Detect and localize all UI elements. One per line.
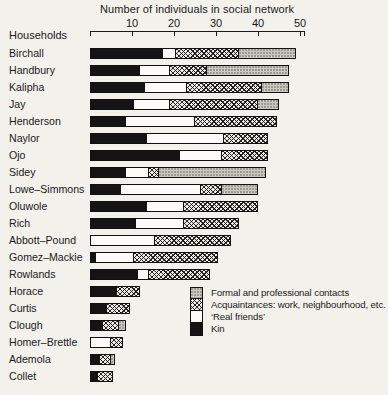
bar-segment-acquaintances [186, 83, 262, 92]
bar-segment-kin [91, 355, 99, 364]
bar-segment-real_friends [139, 66, 168, 75]
bar-segment-real_friends [125, 117, 194, 126]
bar-row [90, 269, 210, 280]
bar-row [90, 99, 279, 110]
household-label: Sidey [9, 167, 36, 178]
legend-label-real_friends: ‘Real friends’ [211, 311, 265, 324]
bar-segment-formal [261, 83, 288, 92]
bar-row [90, 184, 258, 195]
household-label: Rowlands [9, 269, 56, 280]
bar-row [90, 133, 268, 144]
household-label: Jay [9, 99, 26, 110]
bar-segment-real_friends [91, 236, 154, 245]
bar-segment-real_friends [135, 219, 183, 228]
household-label: Curtis [9, 303, 37, 314]
axis-tick-label: 40 [252, 17, 264, 29]
bar-segment-formal [257, 100, 278, 109]
bar-segment-acquaintances [148, 270, 209, 279]
bar-segment-real_friends [133, 100, 169, 109]
legend-label-formal: Formal and professional contacts [211, 287, 349, 300]
bar-segment-acquaintances [99, 355, 110, 364]
bar-segment-real_friends [144, 83, 186, 92]
bar-row [90, 150, 268, 161]
bar-row [90, 235, 231, 246]
household-label: Collet [9, 371, 36, 382]
bar-segment-acquaintances [183, 219, 238, 228]
bar-segment-kin [91, 117, 125, 126]
bar-segment-acquaintances [200, 185, 221, 194]
bar-row [90, 252, 218, 263]
bar-segment-acquaintances [116, 287, 139, 296]
bar-segment-real_friends [179, 151, 221, 160]
bar-row [90, 218, 239, 229]
bar-row [90, 167, 266, 178]
bar-segment-real_friends [146, 202, 184, 211]
chart-title: Number of individuals in social network [88, 3, 306, 15]
bar-segment-acquaintances [154, 236, 230, 245]
household-label: Oluwole [9, 201, 47, 212]
axis-tick [300, 31, 301, 36]
bar-segment-kin [91, 66, 139, 75]
bar-segment-acquaintances [169, 100, 257, 109]
bar-segment-kin [91, 49, 162, 58]
bar-segment-formal [158, 168, 265, 177]
bar-segment-real_friends [125, 168, 148, 177]
bar-segment-formal [221, 185, 257, 194]
axis-tick [90, 31, 91, 36]
legend-item-kin: Kin [190, 323, 386, 335]
bar-segment-acquaintances [148, 168, 159, 177]
bar-segment-kin [91, 219, 135, 228]
bar-segment-kin [91, 185, 120, 194]
bar-segment-acquaintances [133, 253, 217, 262]
household-label: Rich [9, 218, 30, 229]
bar-row [90, 320, 126, 331]
bar-segment-kin [91, 321, 102, 330]
bar-segment-kin [91, 202, 146, 211]
legend-item-acquaintances: Acquaintances: work, neighbourhood, etc. [190, 299, 386, 311]
bar-segment-real_friends [120, 185, 200, 194]
bar-row [90, 354, 115, 365]
bar-row [90, 116, 277, 127]
bar-segment-real_friends [137, 270, 148, 279]
bar-segment-real_friends [162, 49, 175, 58]
bar-row [90, 286, 140, 297]
axis-tick-label: 30 [210, 17, 222, 29]
axis-tick [216, 31, 217, 36]
bar-segment-kin [91, 304, 106, 313]
household-label: Abbott–Pound [9, 235, 76, 246]
bar-segment-acquaintances [110, 338, 123, 347]
bar-segment-kin [91, 134, 146, 143]
bar-row [90, 82, 289, 93]
bar-segment-real_friends [91, 338, 110, 347]
household-label: Handbury [9, 65, 55, 76]
axis-tick [174, 31, 175, 36]
bar-segment-acquaintances [106, 304, 129, 313]
legend: Formal and professional contactsAcquaint… [190, 287, 386, 335]
legend-label-acquaintances: Acquaintances: work, neighbourhood, etc. [211, 299, 386, 312]
axis-tick-label: 20 [168, 17, 180, 29]
household-label: Ademola [9, 354, 51, 365]
bar-segment-kin [91, 151, 179, 160]
household-label: Lowe–Simmons [9, 184, 84, 195]
household-label: Homer–Brettle [9, 337, 77, 348]
axis-tick [132, 31, 133, 36]
bar-row [90, 65, 289, 76]
bar-segment-real_friends [146, 134, 224, 143]
bar-segment-formal [238, 49, 295, 58]
bar-segment-kin [91, 168, 125, 177]
axis-tick [258, 31, 259, 36]
household-label: Ojo [9, 150, 26, 161]
bar-segment-kin [91, 100, 133, 109]
bar-segment-acquaintances [223, 134, 267, 143]
bar-segment-formal [206, 66, 288, 75]
bar-row [90, 337, 123, 348]
bar-segment-real_friends [95, 253, 133, 262]
legend-item-formal: Formal and professional contacts [190, 287, 386, 299]
legend-swatch-kin [190, 322, 203, 336]
bar-segment-acquaintances [175, 49, 238, 58]
bar-row [90, 201, 258, 212]
axis-tick [304, 31, 305, 36]
household-label: Naylor [9, 133, 40, 144]
bar-row [90, 371, 113, 382]
bar-segment-acquaintances [169, 66, 207, 75]
